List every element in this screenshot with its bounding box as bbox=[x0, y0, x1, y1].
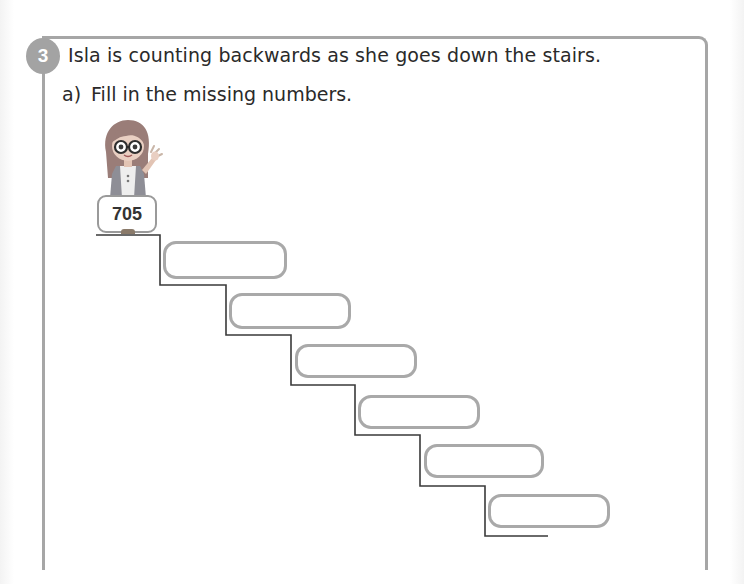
girl-with-glasses-waving-icon bbox=[96, 118, 168, 198]
sub-question-text: Fill in the missing numbers. bbox=[91, 83, 352, 105]
answer-box-step-6[interactable] bbox=[488, 494, 610, 528]
page-edge-left bbox=[0, 0, 14, 584]
page-edge-right bbox=[730, 0, 744, 584]
character-feet bbox=[121, 229, 135, 234]
answer-box-step-1[interactable] bbox=[163, 241, 287, 279]
answer-box-step-3[interactable] bbox=[295, 344, 417, 378]
sub-question-label: a) bbox=[62, 83, 81, 105]
question-number-badge: 3 bbox=[26, 38, 60, 74]
question-text: Isla is counting backwards as she goes d… bbox=[68, 44, 601, 66]
sub-question-a: a)Fill in the missing numbers. bbox=[62, 83, 352, 105]
answer-box-step-4[interactable] bbox=[358, 395, 480, 429]
start-number-box: 705 bbox=[97, 195, 157, 233]
question-frame bbox=[42, 36, 708, 570]
answer-box-step-5[interactable] bbox=[424, 444, 544, 478]
answer-box-step-2[interactable] bbox=[229, 293, 351, 329]
